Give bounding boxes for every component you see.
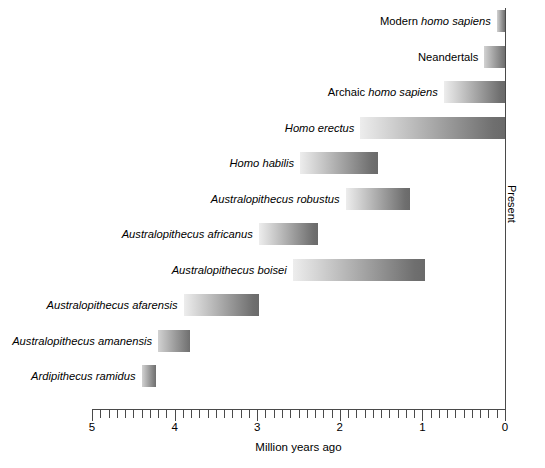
timeline-row: Australopithecus afarensis <box>0 292 545 318</box>
x-tick-minor <box>282 410 283 418</box>
x-tick-minor <box>249 410 250 418</box>
species-label: Homo habilis <box>0 150 294 176</box>
x-tick-minor <box>497 410 498 418</box>
timeline-row: Homo habilis <box>0 150 545 176</box>
x-tick-minor <box>307 410 308 418</box>
range-bar <box>259 223 318 245</box>
x-tick-minor <box>290 410 291 418</box>
x-tick-label: 5 <box>82 421 102 433</box>
present-axis-label: Present <box>506 185 518 223</box>
x-tick-minor <box>216 410 217 418</box>
x-tick-minor <box>265 410 266 418</box>
x-tick-minor <box>208 410 209 418</box>
x-tick-minor <box>133 410 134 418</box>
species-label: Australopithecus afarensis <box>0 292 178 318</box>
range-bar <box>158 330 190 352</box>
species-label-italic: homo sapiens <box>368 86 438 98</box>
timeline-row: Archaic homo sapiens <box>0 79 545 105</box>
timeline-row: Modern homo sapiens <box>0 8 545 34</box>
x-tick-minor <box>241 410 242 418</box>
range-bar <box>300 152 378 174</box>
x-tick-major <box>175 410 176 421</box>
species-label-italic: Australopithecus boisei <box>172 264 287 276</box>
x-tick-major <box>92 410 93 421</box>
timeline-row: Neandertals <box>0 44 545 70</box>
range-bar <box>346 188 410 210</box>
x-tick-minor <box>332 410 333 418</box>
x-tick-label: 0 <box>495 421 515 433</box>
x-tick-minor <box>100 410 101 418</box>
x-tick-label: 1 <box>412 421 432 433</box>
range-bar <box>484 46 505 68</box>
x-tick-minor <box>274 410 275 418</box>
x-tick-major <box>505 410 506 421</box>
x-tick-minor <box>158 410 159 418</box>
species-label-italic: Australopithecus afarensis <box>46 299 177 311</box>
species-label-italic: Homo erectus <box>285 122 355 134</box>
x-tick-minor <box>464 410 465 418</box>
species-label: Archaic homo sapiens <box>0 79 438 105</box>
species-label-roman: Modern <box>380 15 421 27</box>
x-tick-minor <box>315 410 316 418</box>
x-tick-minor <box>232 410 233 418</box>
species-label-italic: Australopithecus amanensis <box>12 335 152 347</box>
species-label: Australopithecus robustus <box>0 186 340 212</box>
evolution-timeline-chart: Modern homo sapiensNeandertalsArchaic ho… <box>0 0 545 468</box>
x-tick-minor <box>480 410 481 418</box>
species-label: Ardipithecus ramidus <box>0 363 136 389</box>
range-bar <box>184 294 259 316</box>
x-tick-major <box>340 410 341 421</box>
timeline-row: Australopithecus africanus <box>0 221 545 247</box>
x-tick-minor <box>406 410 407 418</box>
timeline-row: Australopithecus robustus <box>0 186 545 212</box>
x-tick-minor <box>488 410 489 418</box>
x-tick-minor <box>299 410 300 418</box>
x-tick-minor <box>356 410 357 418</box>
x-tick-minor <box>447 410 448 418</box>
x-tick-minor <box>191 410 192 418</box>
species-label-italic: Ardipithecus ramidus <box>31 370 135 382</box>
x-tick-minor <box>109 410 110 418</box>
range-bar <box>142 365 157 387</box>
species-label: Neandertals <box>0 44 478 70</box>
x-tick-minor <box>199 410 200 418</box>
species-label-italic: homo sapiens <box>421 15 491 27</box>
x-tick-minor <box>125 410 126 418</box>
x-tick-label: 4 <box>165 421 185 433</box>
x-tick-label: 3 <box>247 421 267 433</box>
x-tick-minor <box>117 410 118 418</box>
x-tick-minor <box>389 410 390 418</box>
x-tick-minor <box>472 410 473 418</box>
x-tick-minor <box>323 410 324 418</box>
species-label-roman: Neandertals <box>418 51 478 63</box>
x-tick-major <box>257 410 258 421</box>
timeline-row: Ardipithecus ramidus <box>0 363 545 389</box>
x-tick-minor <box>348 410 349 418</box>
species-label-italic: Australopithecus robustus <box>211 193 340 205</box>
species-label-italic: Homo habilis <box>229 157 294 169</box>
range-bar <box>497 10 505 32</box>
species-label: Modern homo sapiens <box>0 8 491 34</box>
range-bar <box>293 259 425 281</box>
species-label-roman: Archaic <box>328 86 368 98</box>
species-label-italic: Australopithecus africanus <box>122 228 253 240</box>
x-axis-title: Million years ago <box>255 441 341 453</box>
x-tick-minor <box>398 410 399 418</box>
x-tick-minor <box>224 410 225 418</box>
x-axis-title-wrap: Million years ago <box>92 441 505 453</box>
x-tick-minor <box>414 410 415 418</box>
x-tick-minor <box>455 410 456 418</box>
range-bar <box>360 117 505 139</box>
x-tick-minor <box>381 410 382 418</box>
x-tick-minor <box>365 410 366 418</box>
species-label: Australopithecus africanus <box>0 221 253 247</box>
timeline-row: Homo erectus <box>0 115 545 141</box>
species-label: Homo erectus <box>0 115 354 141</box>
species-label: Australopithecus amanensis <box>0 328 152 354</box>
species-label: Australopithecus boisei <box>0 257 287 283</box>
x-tick-minor <box>439 410 440 418</box>
range-bar <box>444 81 505 103</box>
x-tick-label: 2 <box>330 421 350 433</box>
x-tick-minor <box>373 410 374 418</box>
x-tick-minor <box>142 410 143 418</box>
